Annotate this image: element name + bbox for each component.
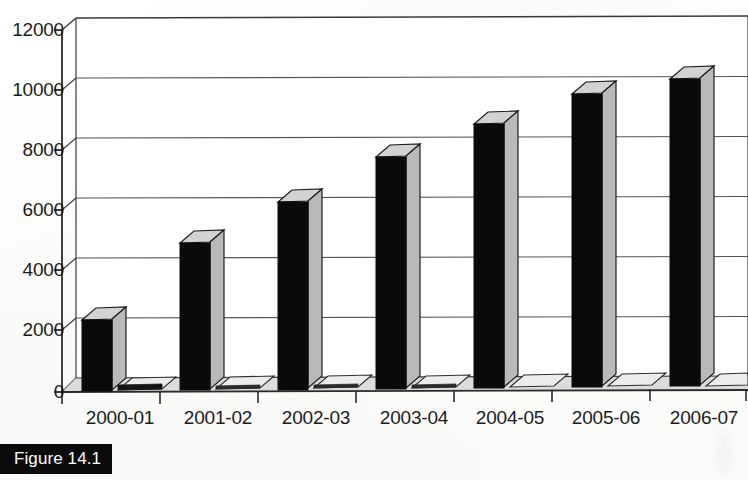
bar-2004-05 — [474, 111, 518, 388]
figure-14-1: 12000 10000 8000 6000 4000 2000 0 2000-0… — [0, 0, 748, 480]
x-tick-2000-01: 2000-01 — [71, 408, 169, 427]
y-tick-12000: 12000 — [2, 20, 64, 39]
bar-2001-02 — [180, 230, 224, 390]
bar-2000-01 — [82, 307, 126, 391]
bar-2005-06 — [572, 81, 616, 387]
y-tick-8000: 8000 — [2, 140, 64, 159]
y-tick-4000: 4000 — [2, 260, 64, 279]
y-tick-6000: 6000 — [2, 200, 64, 219]
y-tick-10000: 10000 — [2, 80, 64, 99]
x-tick-2004-05: 2004-05 — [461, 408, 559, 427]
bar-2002-03 — [278, 189, 322, 390]
y-tick-2000: 2000 — [2, 320, 64, 339]
x-axis-labels: 2000-01 2001-02 2002-03 2003-04 2004-05 … — [0, 408, 748, 442]
x-tick-2005-06: 2005-06 — [557, 408, 655, 427]
x-tick-2003-04: 2003-04 — [365, 408, 463, 427]
y-tick-0: 0 — [2, 382, 64, 401]
x-tick-2006-07: 2006-07 — [655, 408, 748, 427]
figure-caption: Figure 14.1 — [0, 444, 112, 474]
bar-2003-04 — [376, 144, 420, 389]
x-tick-2001-02: 2001-02 — [169, 408, 267, 427]
bar-2006-07 — [670, 66, 714, 386]
x-tick-2002-03: 2002-03 — [267, 408, 365, 427]
